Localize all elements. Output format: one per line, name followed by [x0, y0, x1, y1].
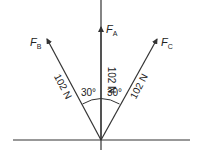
- angle-right-label: 30°: [107, 87, 122, 98]
- force-b-magnitude: 102 N: [52, 72, 74, 101]
- force-a-label: FA: [106, 23, 118, 37]
- force-c-label: FC: [161, 36, 173, 50]
- angle-left-label: 30°: [81, 87, 96, 98]
- force-diagram: FA FB FC 102 N 102 N 102 N 30° 30°: [0, 0, 199, 163]
- force-b-label: FB: [30, 36, 42, 50]
